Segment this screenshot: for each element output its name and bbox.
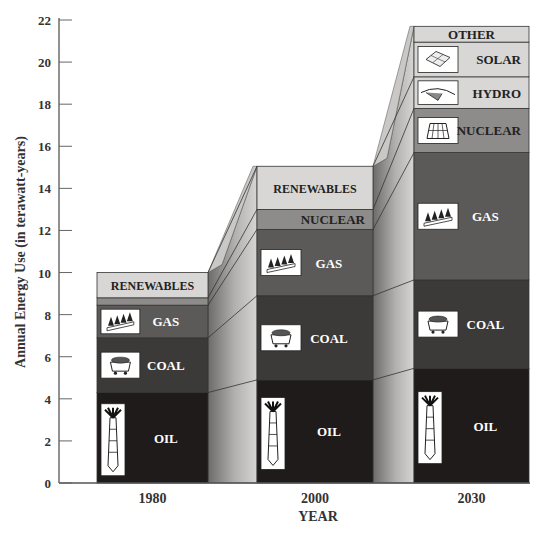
segment-gas: GAS <box>257 229 373 295</box>
gas-flames-icon <box>418 203 458 229</box>
side-wall <box>208 166 257 483</box>
segment-oil: OIL <box>97 393 208 483</box>
bar-2000: OILCOALGASNUCLEARRENEWABLES <box>257 166 373 483</box>
coal-cart-icon <box>418 311 458 337</box>
segment-renewables: RENEWABLES <box>97 273 208 298</box>
segment-other: OTHER <box>414 26 529 42</box>
cooling-tower-icon <box>418 117 458 143</box>
y-tick-label: 0 <box>45 476 52 491</box>
y-tick-label: 12 <box>38 223 51 238</box>
coal-cart-icon <box>101 352 140 378</box>
segment-coal: COAL <box>414 280 529 368</box>
segment-solar: SOLAR <box>414 42 529 77</box>
segment-label: GAS <box>472 209 499 224</box>
stacked-energy-chart: OILCOALGASRENEWABLESOILCOALGASNUCLEARREN… <box>0 0 541 535</box>
y-tick-label: 4 <box>45 392 52 407</box>
segment-label: NUCLEAR <box>457 123 522 138</box>
y-tick-label: 14 <box>38 181 52 196</box>
x-tick-label: 2000 <box>301 491 329 506</box>
x-axis-label: YEAR <box>298 509 339 524</box>
segment-label: RENEWABLES <box>111 279 195 293</box>
y-tick-label: 2 <box>45 434 52 449</box>
y-tick-label: 16 <box>38 139 52 154</box>
x-tick-label: 1980 <box>139 491 167 506</box>
y-tick-label: 18 <box>38 97 52 112</box>
oil-derrick-icon <box>418 392 442 464</box>
bar-stacks: OILCOALGASRENEWABLESOILCOALGASNUCLEARREN… <box>97 26 529 483</box>
segment-label: GAS <box>316 256 343 271</box>
segment-gas: GAS <box>414 153 529 280</box>
segment-hydro: HYDRO <box>414 77 529 109</box>
segment-label: SOLAR <box>476 52 521 67</box>
segment-label: OTHER <box>448 27 496 42</box>
segment-gas: GAS <box>97 305 208 338</box>
segment-nuclear: NUCLEAR <box>414 108 529 152</box>
y-tick-label: 20 <box>38 55 51 70</box>
oil-derrick-icon <box>101 404 125 476</box>
y-tick-label: 22 <box>38 13 51 28</box>
segment-label: RENEWABLES <box>273 182 357 196</box>
segment-coal: COAL <box>257 296 373 380</box>
segment-label: COAL <box>310 331 348 346</box>
y-tick-label: 6 <box>45 350 52 365</box>
y-axis-label: Annual Energy Use (in terawatt-years) <box>13 136 29 368</box>
solar-panel-icon <box>418 46 458 72</box>
x-axis-labels: 198020002030 <box>139 491 486 506</box>
segment-label: COAL <box>147 358 185 373</box>
bar-2030: OILCOALGASNUCLEARHYDROSOLAROTHER <box>414 26 529 483</box>
segment-other-thin <box>97 298 208 305</box>
segment-nuclear: NUCLEAR <box>257 209 373 229</box>
x-tick-label: 2030 <box>458 491 486 506</box>
segment-label: NUCLEAR <box>301 212 366 227</box>
segment-coal: COAL <box>97 338 208 393</box>
oil-derrick-icon <box>261 397 285 469</box>
coal-cart-icon <box>261 325 301 351</box>
y-tick-label: 10 <box>38 266 51 281</box>
gas-flames-icon <box>101 309 140 334</box>
segment-label: OIL <box>473 419 497 434</box>
segment-oil: OIL <box>414 368 529 483</box>
segment-label: OIL <box>154 431 178 446</box>
segment-label: HYDRO <box>473 86 521 101</box>
dam-icon <box>418 81 458 105</box>
gas-flames-icon <box>261 250 301 276</box>
segment-label: OIL <box>317 424 341 439</box>
segment-label: GAS <box>152 314 179 329</box>
segment-renewables: RENEWABLES <box>257 166 373 209</box>
segment-label: COAL <box>467 317 505 332</box>
bar-1980: OILCOALGASRENEWABLES <box>97 273 208 483</box>
segment-oil: OIL <box>257 380 373 483</box>
y-tick-label: 8 <box>45 308 52 323</box>
